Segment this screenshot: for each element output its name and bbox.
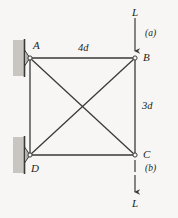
dimension-label-top-span: 4d (78, 43, 89, 54)
node-label-D: D (31, 163, 39, 174)
node-label-C: C (143, 149, 150, 160)
node-label-B: B (143, 52, 150, 63)
joint-D (28, 153, 32, 157)
dimension-label-right-height: 3d (142, 101, 153, 112)
load-label-bottom-force: L (132, 198, 138, 209)
node-label-A: A (33, 40, 40, 51)
joint-A (28, 56, 32, 60)
load-label-top-force: L (132, 7, 138, 18)
truss-figure: A B C D 4d 3d L (a) (b) L (0, 0, 178, 218)
load-label-top-case: (a) (145, 29, 156, 39)
joint-C (133, 153, 137, 157)
joint-B (133, 56, 137, 60)
load-label-bottom-case: (b) (145, 164, 156, 174)
